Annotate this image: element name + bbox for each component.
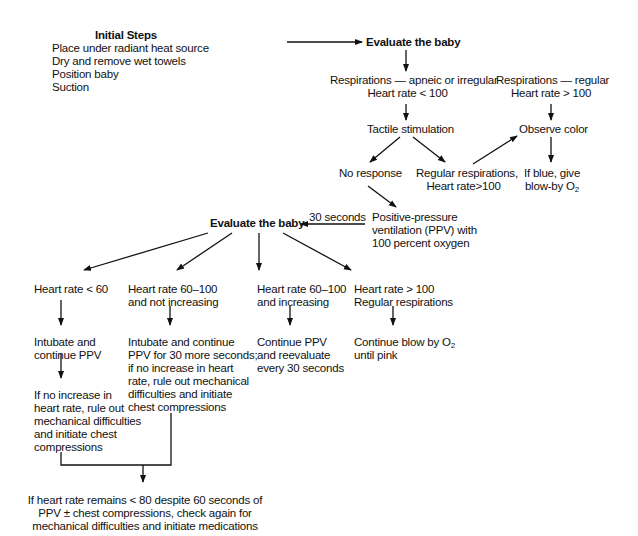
ppv-node: Positive-pressure ventilation (PPV) with… [372, 211, 477, 250]
condition-line: Heart rate < 60 [34, 283, 108, 296]
ppv-line: ventilation (PPV) with [372, 224, 477, 237]
observe-color-node: Observe color [519, 123, 588, 136]
branch-hr-60-100-increasing: Heart rate 60–100 and increasing [257, 283, 346, 309]
action-text: Continue blow by O [354, 336, 451, 348]
action-line: Continue PPV [257, 336, 344, 349]
evaluate-baby-mid: Evaluate the baby [210, 217, 304, 230]
ppv-line: 100 percent oxygen [372, 237, 477, 250]
heart-rate-line: Heart rate < 100 [330, 87, 485, 100]
final-line: If heart rate remains < 80 despite 60 se… [20, 494, 270, 507]
thirty-seconds-label: 30 seconds [309, 211, 366, 224]
action-line: continue PPV [34, 349, 101, 362]
branch-1-action: Intubate and continue PPV [34, 336, 101, 362]
condition-line: Heart rate 60–100 [257, 283, 346, 296]
action-line: rate, rule out mechanical [128, 375, 257, 388]
tactile-stimulation-node: Tactile stimulation [367, 123, 454, 136]
initial-steps-title: Initial Steps [52, 29, 209, 42]
subscript: 2 [451, 341, 455, 350]
action-line: and reevaluate [257, 349, 344, 362]
regular-resp-line: Regular respirations, [416, 167, 511, 180]
action-line: chest compressions [128, 401, 257, 414]
action-line: if no increase in heart [128, 362, 257, 375]
action-line: until pink [354, 349, 455, 362]
blow-by-text: blow-by O [525, 180, 575, 192]
followup-line: If no increase in [34, 389, 141, 402]
heart-rate-line: Heart rate > 100 [496, 87, 606, 100]
final-line: PPV ± chest compressions, check again fo… [20, 507, 270, 520]
branch-hr-60-100-not-increasing: Heart rate 60–100 and not increasing [128, 283, 218, 309]
followup-line: and initiate chest [34, 428, 141, 441]
condition-line: and not increasing [128, 296, 218, 309]
condition-line: and increasing [257, 296, 346, 309]
condition-line: Heart rate 60–100 [128, 283, 218, 296]
blow-by-line: Continue blow by O2 [354, 336, 455, 349]
initial-step-item: Dry and remove wet towels [52, 55, 209, 68]
neonatal-resuscitation-flowchart: Initial Steps Place under radiant heat s… [0, 0, 638, 536]
resp-regular-node: Respirations — regular Heart rate > 100 [496, 74, 606, 100]
condition-line: Regular respirations [354, 296, 453, 309]
resp-irregular-line: Respirations — apneic or irregular [330, 74, 485, 87]
resp-irregular-node: Respirations — apneic or irregular Heart… [330, 74, 485, 100]
condition-line: Heart rate > 100 [354, 283, 453, 296]
initial-step-item: Suction [52, 81, 209, 94]
branch-hr-under-60: Heart rate < 60 [34, 283, 108, 296]
action-line: Intubate and continue [128, 336, 257, 349]
action-line: every 30 seconds [257, 362, 344, 375]
resp-regular-line: Respirations — regular [496, 74, 606, 87]
final-node: If heart rate remains < 80 despite 60 se… [20, 494, 270, 533]
blow-by-line: blow-by O2 [520, 180, 584, 193]
branch-3-action: Continue PPV and reevaluate every 30 sec… [257, 336, 344, 375]
final-line: mechanical difficulties and initiate med… [20, 520, 270, 533]
if-blue-node: If blue, give blow-by O2 [520, 167, 584, 193]
ppv-line: Positive-pressure [372, 211, 477, 224]
regular-resp-node: Regular respirations, Heart rate>100 [416, 167, 511, 193]
subscript: 2 [575, 185, 579, 194]
initial-step-item: Place under radiant heat source [52, 42, 209, 55]
followup-line: compressions [34, 441, 141, 454]
no-response-node: No response [339, 167, 402, 180]
heart-rate-line: Heart rate>100 [416, 180, 511, 193]
if-blue-line: If blue, give [520, 167, 584, 180]
branch-4-action: Continue blow by O2 until pink [354, 336, 455, 362]
action-line: PPV for 30 more seconds; [128, 349, 257, 362]
branch-hr-over-100: Heart rate > 100 Regular respirations [354, 283, 453, 309]
action-line: Intubate and [34, 336, 101, 349]
followup-line: mechanical difficulties [34, 415, 141, 428]
initial-step-item: Position baby [52, 68, 209, 81]
evaluate-baby-top: Evaluate the baby [366, 36, 460, 49]
branch-2-action: Intubate and continue PPV for 30 more se… [128, 336, 257, 414]
initial-steps-box: Initial Steps Place under radiant heat s… [52, 29, 209, 94]
action-line: difficulties and initiate [128, 388, 257, 401]
branch-1-followup: If no increase in heart rate, rule out m… [34, 389, 141, 454]
followup-line: heart rate, rule out [34, 402, 141, 415]
